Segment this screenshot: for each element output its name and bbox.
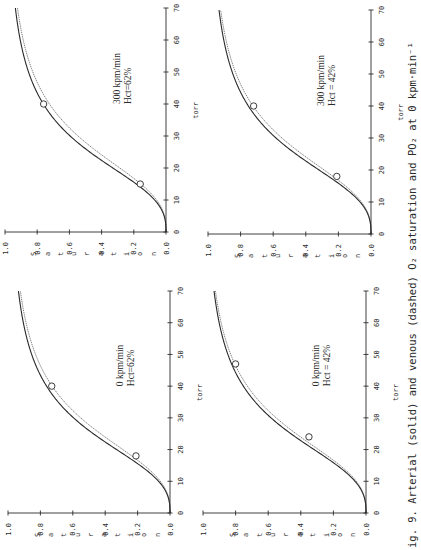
saturation-tick-label: 1.0 — [205, 244, 213, 257]
svg-text:a: a — [47, 533, 55, 537]
svg-text:t: t — [114, 533, 122, 537]
svg-text:r: r — [282, 533, 290, 537]
saturation-tick-label: 0.0 — [163, 242, 171, 255]
torr-tick-label: 50 — [177, 350, 185, 358]
svg-text:t: t — [309, 533, 317, 537]
measured-point-circle — [133, 453, 139, 459]
torr-tick-label: 70 — [373, 287, 381, 295]
torr-tick-label: 70 — [177, 287, 185, 295]
svg-text:Hct = 42%: Hct = 42% — [322, 345, 332, 386]
svg-text:300 kpm/min: 300 kpm/min — [316, 55, 326, 106]
svg-text:i: i — [127, 533, 135, 537]
panel-top-left-300kpm-hct62: 0.00.20.40.60.81.0Saturation010203040506… — [2, 4, 201, 256]
figure-9: 0.00.20.40.60.81.0Saturation010203040506… — [0, 0, 421, 550]
svg-text:o: o — [336, 533, 344, 537]
saturation-tick-label: 0.0 — [363, 523, 371, 536]
arterial-curve-solid — [214, 291, 366, 513]
svg-text:i: i — [328, 254, 336, 258]
svg-text:u: u — [274, 254, 282, 258]
torr-axis-title: torr — [392, 384, 400, 401]
torr-tick-label: 40 — [173, 100, 181, 108]
svg-text:a: a — [44, 252, 52, 256]
svg-text:o: o — [341, 254, 349, 258]
panel-annotation: 300 kpm/minHct = 42% — [316, 55, 337, 106]
saturation-axis-title: Saturation — [34, 533, 162, 537]
torr-tick-label: 30 — [177, 414, 185, 422]
torr-tick-label: 70 — [378, 6, 386, 14]
svg-text:t: t — [60, 533, 68, 537]
torr-tick-label: 0 — [378, 232, 386, 236]
svg-text:r: r — [287, 254, 295, 258]
saturation-axis-title: Saturation — [234, 254, 363, 258]
svg-text:a: a — [247, 254, 255, 258]
torr-tick-label: 30 — [173, 132, 181, 140]
torr-tick-label: 30 — [378, 134, 386, 142]
arterial-curve-solid — [15, 8, 166, 232]
torr-tick-label: 10 — [177, 477, 185, 485]
torr-tick-label: 50 — [373, 350, 381, 358]
saturation-tick-label: 1.0 — [2, 242, 10, 255]
svg-text:t: t — [261, 254, 269, 258]
venous-curve-dashed — [221, 10, 371, 234]
torr-axis-title: torr — [397, 104, 405, 121]
svg-text:r: r — [87, 533, 95, 537]
svg-text:o: o — [136, 252, 144, 256]
saturation-tick-label: 0.0 — [167, 523, 175, 536]
torr-tick-label: 60 — [378, 38, 386, 46]
svg-text:Hct = 42%: Hct = 42% — [327, 65, 337, 106]
svg-text:u: u — [70, 252, 78, 256]
torr-tick-label: 10 — [373, 477, 381, 485]
svg-text:S: S — [34, 533, 42, 537]
svg-text:S: S — [234, 254, 242, 258]
svg-text:S: S — [30, 252, 38, 256]
svg-text:t: t — [314, 254, 322, 258]
svg-text:a: a — [242, 533, 250, 537]
torr-tick-label: 60 — [373, 318, 381, 326]
venous-curve-dashed — [215, 291, 366, 513]
torr-tick-label: 0 — [373, 511, 381, 515]
panel-bottom-left-0kpm-hct62: 0.00.20.40.60.81.0Saturation010203040506… — [5, 287, 205, 537]
torr-tick-label: 60 — [177, 318, 185, 326]
torr-tick-label: 40 — [378, 102, 386, 110]
measured-point-circle — [40, 101, 46, 107]
venous-curve-dashed — [18, 8, 166, 232]
torr-tick-label: 20 — [177, 445, 185, 453]
svg-text:a: a — [100, 533, 108, 537]
svg-text:Hct=62%: Hct=62% — [126, 350, 136, 387]
torr-tick-label: 0 — [173, 230, 181, 234]
svg-text:t: t — [256, 533, 264, 537]
svg-text:S: S — [229, 533, 237, 537]
torr-tick-label: 0 — [177, 511, 185, 515]
torr-axis-title: torr — [192, 102, 200, 119]
svg-text:a: a — [296, 533, 304, 537]
svg-text:Hct=62%: Hct=62% — [123, 67, 133, 104]
svg-text:o: o — [140, 533, 148, 537]
saturation-tick-label: 1.0 — [5, 523, 13, 536]
torr-tick-label: 60 — [173, 36, 181, 44]
measured-point-circle — [250, 103, 256, 109]
svg-text:300 kpm/min: 300 kpm/min — [112, 53, 122, 104]
torr-axis-title: torr — [196, 384, 204, 401]
torr-tick-label: 20 — [378, 166, 386, 174]
measured-point-circle — [137, 181, 143, 187]
arterial-curve-solid — [219, 10, 371, 234]
measured-point-circle — [49, 383, 55, 389]
panel-annotation: 0 kpm/minHct=62% — [115, 344, 136, 386]
torr-tick-label: 20 — [373, 445, 381, 453]
svg-text:n: n — [154, 533, 162, 537]
measured-point-circle — [306, 434, 312, 440]
svg-text:u: u — [269, 533, 277, 537]
panel-top-right-300kpm-hct42: 0.00.20.40.60.81.0Saturation010203040506… — [205, 6, 406, 258]
torr-tick-label: 20 — [173, 164, 181, 172]
arterial-curve-solid — [18, 291, 170, 513]
measured-point-circle — [334, 173, 340, 179]
measured-point-circle — [232, 361, 238, 367]
saturation-tick-label: 1.0 — [200, 523, 208, 536]
saturation-axis-title: Saturation — [30, 252, 157, 256]
svg-text:n: n — [349, 533, 357, 537]
svg-text:i: i — [323, 533, 331, 537]
torr-tick-label: 50 — [378, 70, 386, 78]
venous-curve-dashed — [20, 291, 170, 513]
svg-text:0 kpm/min: 0 kpm/min — [115, 344, 125, 386]
panel-bottom-right-0kpm-hct42: 0.00.20.40.60.81.0Saturation010203040506… — [200, 287, 401, 537]
